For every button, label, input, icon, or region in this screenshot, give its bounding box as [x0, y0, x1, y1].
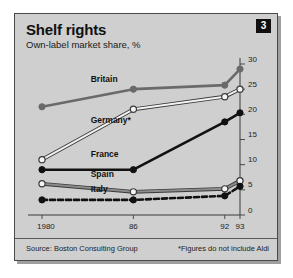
x-axis-tick-label: 86 — [129, 222, 138, 231]
data-point-marker — [222, 82, 228, 88]
data-point-marker — [130, 189, 136, 195]
data-point-marker — [39, 197, 45, 203]
series-label-italy: Italy — [91, 184, 108, 194]
data-point-marker — [237, 110, 243, 116]
axis-tick-group: 051015202530 — [240, 55, 257, 216]
y-axis-tick-label: 10 — [248, 155, 257, 164]
data-point-marker — [39, 104, 45, 110]
chart-footer: Source: Boston Consulting Group *Figures… — [15, 238, 277, 260]
chart-header: Shelf rights Own-label market share, % — [15, 14, 277, 51]
panel-number-badge: 3 — [256, 19, 271, 33]
chart-card: Shelf rights Own-label market share, % 3… — [14, 13, 278, 261]
y-axis-tick-label: 15 — [248, 130, 257, 139]
y-axis-tick-label: 0 — [248, 206, 253, 215]
y-axis-tick-label: 20 — [248, 105, 257, 114]
data-point-marker — [130, 86, 136, 92]
footnote: *Figures do not include Aldi — [178, 244, 269, 253]
data-point-marker — [130, 106, 136, 112]
data-point-marker — [237, 66, 243, 72]
data-point-marker — [130, 197, 136, 203]
y-axis-tick-label: 30 — [248, 55, 257, 64]
data-point-marker — [39, 167, 45, 173]
series-line-britain — [42, 69, 240, 107]
series-label-germany: Germany* — [91, 115, 132, 125]
x-axis-label-group: 1980869293 — [37, 215, 245, 231]
data-point-marker — [222, 186, 228, 192]
x-axis-tick-label: 93 — [236, 222, 245, 231]
line-chart-svg: 051015202530 BritainGermany*FranceSpainI… — [15, 52, 279, 237]
series-label-group: BritainGermany*FranceSpainItaly — [91, 74, 132, 194]
series-label-france: France — [91, 149, 119, 159]
x-axis-tick-label: 1980 — [37, 222, 55, 231]
data-point-marker — [130, 167, 136, 173]
data-point-marker — [39, 181, 45, 187]
data-point-marker — [237, 86, 243, 92]
source-note: Source: Boston Consulting Group — [26, 244, 138, 253]
data-point-marker — [237, 183, 243, 189]
series-label-spain: Spain — [91, 169, 114, 179]
chart-subtitle: Own-label market share, % — [26, 39, 277, 51]
y-axis-tick-label: 25 — [248, 80, 257, 89]
page-title: Shelf rights — [26, 21, 277, 38]
data-point-marker — [222, 193, 228, 199]
x-axis-tick-label: 92 — [220, 222, 229, 231]
data-point-marker — [222, 94, 228, 100]
plot-area: 051015202530 BritainGermany*FranceSpainI… — [15, 52, 279, 237]
data-point-marker — [222, 119, 228, 125]
series-label-britain: Britain — [91, 74, 118, 84]
y-axis-tick-label: 5 — [248, 180, 253, 189]
data-point-marker — [39, 157, 45, 163]
series-group — [39, 66, 243, 203]
